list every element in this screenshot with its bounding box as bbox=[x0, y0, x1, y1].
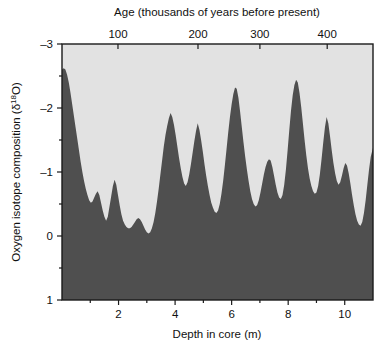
top-tick-label: 200 bbox=[188, 28, 207, 40]
x-axis-title: Depth in core (m) bbox=[173, 328, 262, 340]
y-axis-ticks bbox=[57, 44, 62, 300]
y-axis-title-prefix: Oxygen isotope composition (δ bbox=[10, 104, 22, 262]
x-tick-label: 10 bbox=[338, 308, 351, 320]
x-tick-label: 4 bbox=[172, 308, 179, 320]
y-axis-title: Oxygen isotope composition (δ18O) bbox=[9, 82, 22, 262]
x-tick-label: 8 bbox=[285, 308, 291, 320]
x-axis-tick-labels: 246810 bbox=[115, 308, 351, 320]
top-axis-title: Age (thousands of years before present) bbox=[114, 6, 320, 18]
x-axis-ticks bbox=[90, 300, 344, 305]
chart-canvas: –3–2–101 246810 100200300400 Age (thousa… bbox=[0, 0, 387, 351]
top-tick-label: 300 bbox=[250, 28, 269, 40]
top-axis-tick-labels: 100200300400 bbox=[108, 28, 336, 40]
y-tick-label: –1 bbox=[40, 166, 53, 178]
x-tick-label: 2 bbox=[115, 308, 121, 320]
y-tick-label: –2 bbox=[40, 102, 53, 114]
y-tick-label: –3 bbox=[40, 38, 53, 50]
x-tick-label: 6 bbox=[228, 308, 234, 320]
oxygen-isotope-figure: –3–2–101 246810 100200300400 Age (thousa… bbox=[0, 0, 387, 351]
y-tick-label: 1 bbox=[47, 294, 53, 306]
top-tick-label: 100 bbox=[108, 28, 127, 40]
top-tick-label: 400 bbox=[318, 28, 337, 40]
y-tick-label: 0 bbox=[47, 230, 53, 242]
y-axis-tick-labels: –3–2–101 bbox=[40, 38, 53, 306]
y-axis-title-suffix: O) bbox=[10, 82, 22, 95]
